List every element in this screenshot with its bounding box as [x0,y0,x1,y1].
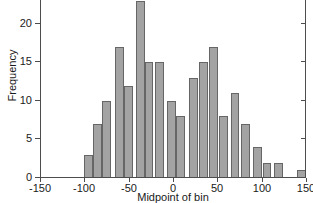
y-axis-title: Frequency [7,36,18,116]
x-axis-title: Midpoint of bin [40,192,306,203]
histogram-bar [176,116,185,178]
histogram-bar [124,86,133,179]
y-axis-tick [35,61,40,62]
histogram-bar [102,101,111,178]
histogram-bar [263,163,272,178]
y-axis-tick-label: 20 [20,18,32,29]
histogram-bar [167,101,176,178]
right-axis-spine [305,0,306,178]
histogram-bar [189,78,198,178]
histogram-bar [231,93,240,178]
histogram-bar [136,1,145,178]
y-axis-tick-right [301,23,306,24]
histogram-bar [209,47,218,178]
y-axis-tick-right [301,100,306,101]
y-axis-spine [40,0,41,178]
y-axis-tick-right [301,61,306,62]
histogram-bar [241,124,250,178]
y-axis-tick-label: 15 [20,56,32,67]
y-axis-tick [35,100,40,101]
histogram-bar [93,124,102,178]
histogram-bar [155,62,164,178]
histogram-bar [253,147,262,178]
histogram-figure: 05101520 -150-100-50050100150 Midpoint o… [0,0,313,203]
histogram-bar [274,163,283,178]
histogram-bar [199,62,208,178]
y-axis-tick [35,138,40,139]
y-axis-tick [35,23,40,24]
histogram-bar [145,62,154,178]
bars-layer [40,0,306,178]
y-axis-tick-label: 5 [26,133,32,144]
y-axis-tick-label: 10 [20,95,32,106]
plot-area [40,0,306,178]
histogram-bar [115,47,124,178]
histogram-bar [219,116,228,178]
histogram-bar [84,155,93,178]
y-axis-tick-right [301,138,306,139]
